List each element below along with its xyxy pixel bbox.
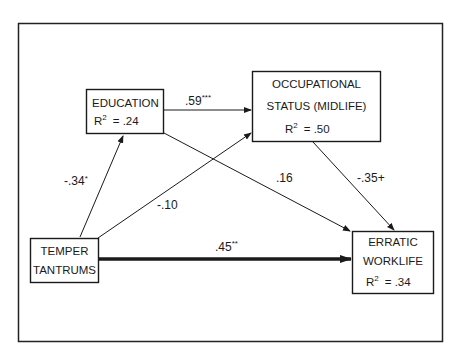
temper-label-2: TANTRUMS [33,264,96,276]
coef-occupational-erratic: -.35+ [357,171,385,185]
coef-temper-occupational: -.10 [157,198,178,212]
path-diagram: -.34* .59*** -.10 .16 -.35+ .45** EDUCAT… [0,0,459,356]
coef-education-erratic: .16 [276,171,293,185]
edge-education-erratic [164,133,350,231]
occupational-r2: R2= .50 [285,121,330,135]
coef-temper-education: -.34* [64,174,88,188]
coef-temper-erratic: .45** [215,239,238,254]
edge-temper-occupational [98,133,251,238]
coef-education-occupational: .59*** [185,93,211,108]
erratic-label-1: ERRATIC [368,236,418,248]
node-temper-tantrums: TEMPER TANTRUMS [31,239,99,283]
occupational-label-2: STATUS (MIDLIFE) [267,100,367,112]
erratic-label-2: WORKLIFE [363,255,423,267]
node-occupational-status: OCCUPATIONAL STATUS (MIDLIFE) R2= .50 [253,72,381,142]
temper-label-1: TEMPER [41,245,89,257]
education-r2: R2= .24 [94,113,139,127]
occupational-label-1: OCCUPATIONAL [272,78,362,90]
erratic-r2: R2= .34 [366,274,411,288]
education-label: EDUCATION [92,97,159,109]
node-erratic-worklife: ERRATIC WORKLIFE R2= .34 [353,232,434,294]
edge-occupational-erratic [313,142,394,230]
edge-temper-education [80,136,123,237]
node-education: EDUCATION R2= .24 [87,90,164,134]
